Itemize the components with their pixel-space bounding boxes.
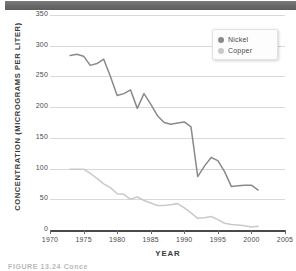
- legend-item-nickel: Nickel: [218, 34, 272, 45]
- y-tick-label: 350: [24, 10, 48, 17]
- x-tick-label: 1995: [201, 236, 235, 243]
- x-tick-label: 2005: [268, 236, 296, 243]
- figure-caption: FIGURE 13.24 Conce: [8, 263, 208, 270]
- x-tick-label: 1980: [100, 236, 134, 243]
- x-tick-mark: [285, 230, 286, 234]
- x-tick-label: 1970: [33, 236, 67, 243]
- x-tick-mark: [117, 230, 118, 234]
- legend-item-copper: Copper: [218, 45, 272, 56]
- legend-label-copper: Copper: [228, 47, 252, 54]
- x-tick-label: 1985: [134, 236, 168, 243]
- chart-legend: Nickel Copper: [212, 29, 278, 60]
- y-axis-title: CONCENTRATION (MICROGRAMS PER LITER): [13, 8, 22, 226]
- y-tick-label: 150: [24, 133, 48, 140]
- figure-page: CONCENTRATION (MICROGRAMS PER LITER) 050…: [0, 0, 296, 271]
- y-axis-tick-labels: 050100150200250300350: [22, 0, 48, 246]
- x-tick-mark: [184, 230, 185, 234]
- y-tick-label: 100: [24, 164, 48, 171]
- x-tick-label: 1990: [167, 236, 201, 243]
- legend-color-swatch-copper: [218, 48, 224, 54]
- x-tick-mark: [84, 230, 85, 234]
- series-line-copper: [70, 169, 258, 227]
- x-tick-label: 1975: [67, 236, 101, 243]
- y-tick-label: 0: [24, 225, 48, 232]
- x-tick-mark: [151, 230, 152, 234]
- page-top-band: [5, 1, 296, 10]
- x-tick-mark: [218, 230, 219, 234]
- y-tick-label: 300: [24, 41, 48, 48]
- legend-label-nickel: Nickel: [228, 36, 248, 43]
- x-tick-mark: [50, 230, 51, 234]
- y-tick-label: 50: [24, 194, 48, 201]
- y-tick-label: 250: [24, 71, 48, 78]
- series-line-nickel: [70, 54, 258, 190]
- x-tick-label: 2000: [234, 236, 268, 243]
- y-tick-label: 200: [24, 102, 48, 109]
- x-axis-title: YEAR: [50, 249, 286, 258]
- legend-color-swatch-nickel: [218, 37, 224, 43]
- x-tick-mark: [251, 230, 252, 234]
